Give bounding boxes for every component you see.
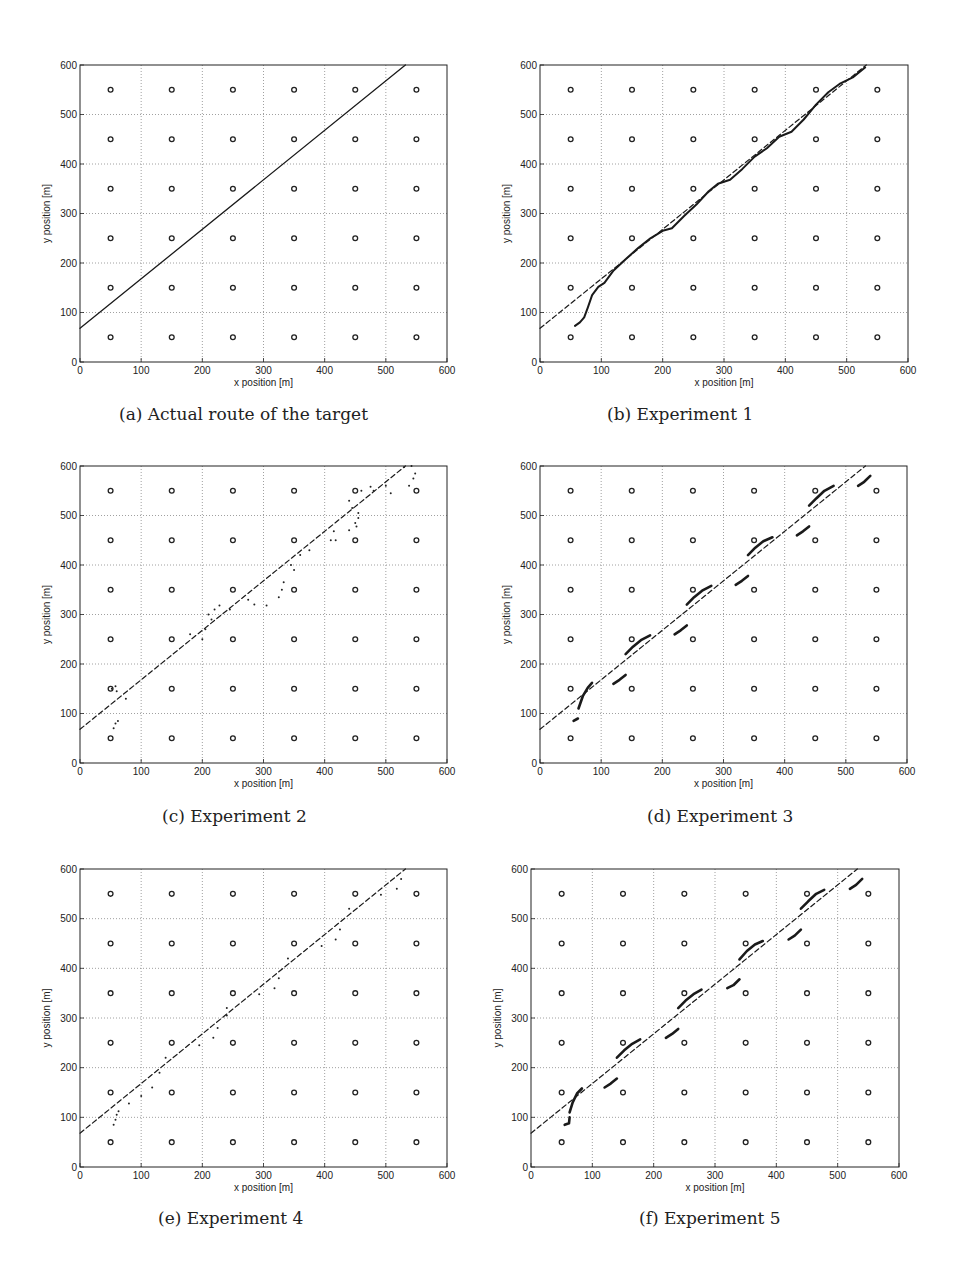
y-tick-label: 400	[511, 963, 528, 974]
x-tick-label: 200	[645, 1170, 662, 1181]
x-tick-label: 400	[768, 1170, 785, 1181]
caption-f: (f) Experiment 5	[639, 1208, 781, 1228]
y-axis-label: y position [m]	[492, 988, 503, 1047]
y-tick-label: 300	[511, 1013, 528, 1024]
x-tick-label: 0	[528, 1170, 534, 1181]
x-tick-label: 100	[584, 1170, 601, 1181]
x-tick-label: 500	[829, 1170, 846, 1181]
caption-d: (d) Experiment 3	[647, 806, 793, 826]
x-axis-label: x position [m]	[686, 1182, 745, 1193]
caption-e: (e) Experiment 4	[158, 1208, 303, 1228]
y-tick-label: 200	[511, 1062, 528, 1073]
y-tick-label: 500	[511, 913, 528, 924]
x-tick-label: 600	[891, 1170, 908, 1181]
caption-c: (c) Experiment 2	[162, 806, 307, 826]
x-tick-label: 300	[707, 1170, 724, 1181]
y-tick-label: 0	[522, 1162, 528, 1173]
caption-b: (b) Experiment 1	[607, 404, 753, 424]
y-tick-label: 100	[511, 1112, 528, 1123]
caption-a: (a) Actual route of the target	[119, 404, 368, 424]
plot-f: 01002003004005006000100200300400500600x …	[0, 0, 958, 1268]
y-tick-label: 600	[511, 864, 528, 875]
